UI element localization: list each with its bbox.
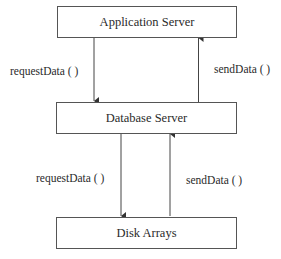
node-database-server: Database Server — [56, 102, 237, 134]
edge-label-send-disk-db: sendData ( ) — [186, 174, 242, 186]
edge-label-request-db-disk: requestData ( ) — [36, 172, 104, 184]
node-label: Disk Arrays — [116, 226, 176, 241]
edge-label-request-app-db: requestData ( ) — [10, 65, 78, 77]
node-application-server: Application Server — [57, 6, 237, 38]
node-label: Application Server — [100, 15, 195, 30]
node-label: Database Server — [106, 111, 188, 126]
node-disk-arrays: Disk Arrays — [56, 217, 237, 249]
edge-label-send-db-app: sendData ( ) — [214, 63, 270, 75]
